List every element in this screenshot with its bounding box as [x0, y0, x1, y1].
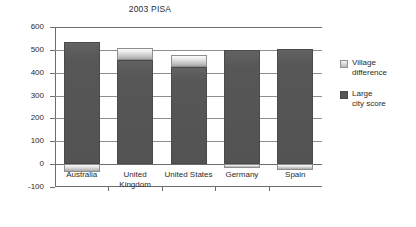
y-tick-label--100: -100 — [14, 182, 44, 191]
y-tick-label-0: 0 — [14, 159, 44, 168]
bar-segment-large-city-score — [277, 49, 313, 164]
legend-swatch-icon-dark — [340, 91, 348, 99]
bar-germany — [224, 27, 260, 187]
bar-segment-village-difference — [277, 164, 313, 170]
y-tick-label-100: 100 — [14, 136, 44, 145]
chart-legend: Village differenceLarge city score — [340, 58, 416, 120]
x-axis-label-spain: Spain — [255, 170, 335, 180]
x-tick-mark-4 — [269, 187, 270, 191]
y-tick-label-400: 400 — [14, 68, 44, 77]
y-tick-label-600: 600 — [14, 22, 44, 31]
bar-united-kingdom — [117, 27, 153, 187]
plot-area — [55, 27, 322, 187]
chart-title: 2003 PISA — [0, 4, 300, 14]
legend-label: Large city score — [352, 89, 386, 109]
y-tick-label-200: 200 — [14, 113, 44, 122]
bar-united-states — [171, 27, 207, 187]
bar-australia — [64, 27, 100, 187]
legend-item-large-city-score: Large city score — [340, 89, 416, 109]
y-tick-mark--100 — [50, 187, 55, 188]
bar-spain — [277, 27, 313, 187]
y-tick-label-300: 300 — [14, 91, 44, 100]
y-tick-label-500: 500 — [14, 45, 44, 54]
bar-segment-large-city-score — [64, 42, 100, 164]
x-tick-mark-3 — [215, 187, 216, 191]
legend-item-village-difference: Village difference — [340, 58, 416, 78]
legend-swatch-icon-light — [340, 60, 348, 68]
pisa-chart-figure: 2003 PISA 6005004003002001000-100 Austra… — [0, 0, 416, 227]
bar-segment-village-difference — [171, 55, 207, 67]
bar-segment-village-difference — [117, 48, 153, 60]
bar-segment-large-city-score — [117, 60, 153, 164]
legend-label: Village difference — [352, 58, 387, 78]
bar-segment-large-city-score — [171, 67, 207, 164]
bar-segment-village-difference — [224, 164, 260, 167]
bar-segment-large-city-score — [224, 50, 260, 164]
